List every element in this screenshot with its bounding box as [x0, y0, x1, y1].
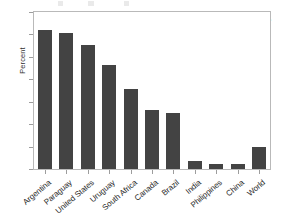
bar	[252, 147, 266, 169]
bar	[102, 65, 116, 169]
y-tick-mark	[29, 12, 33, 13]
y-tick-mark	[29, 147, 33, 148]
bar	[166, 113, 180, 169]
x-tick-mark	[152, 170, 153, 174]
y-tick-mark	[29, 169, 33, 170]
x-tick-mark	[173, 170, 174, 174]
x-tick-mark	[131, 170, 132, 174]
plot-area	[34, 12, 270, 169]
y-tick-mark	[29, 79, 33, 80]
bar	[38, 30, 52, 169]
y-tick-mark	[29, 102, 33, 103]
bar	[124, 89, 138, 169]
x-tick-mark	[88, 170, 89, 174]
bar-chart-figure: Source: James, FAO Percent 0102030405060…	[0, 0, 281, 220]
bar	[81, 45, 95, 169]
bar	[145, 110, 159, 169]
y-tick-mark	[29, 57, 33, 58]
bar	[188, 161, 202, 169]
bar	[231, 164, 245, 169]
x-tick-mark	[66, 170, 67, 174]
bar	[209, 164, 223, 169]
bar	[59, 33, 73, 169]
y-axis-title: Percent	[18, 26, 27, 96]
x-tick-mark	[195, 170, 196, 174]
x-tick-mark	[216, 170, 217, 174]
scan-artifact	[44, 1, 234, 6]
x-tick-mark	[238, 170, 239, 174]
x-tick-mark	[259, 170, 260, 174]
x-tick-mark	[45, 170, 46, 174]
x-tick-mark	[109, 170, 110, 174]
y-tick-mark	[29, 124, 33, 125]
y-tick-mark	[29, 34, 33, 35]
